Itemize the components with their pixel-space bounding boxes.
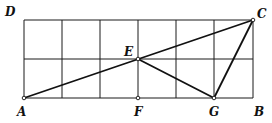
labels: D C E A F G B	[4, 5, 267, 119]
label-E: E	[123, 45, 134, 59]
point-C	[251, 18, 255, 22]
label-A: A	[16, 105, 26, 119]
label-G: G	[209, 105, 219, 119]
geometry-diagram: D C E A F G B	[0, 0, 272, 123]
point-A	[22, 96, 26, 100]
label-D: D	[4, 5, 16, 19]
point-F	[136, 96, 140, 100]
point-E	[136, 57, 140, 61]
label-B: B	[253, 105, 264, 119]
point-G	[212, 96, 216, 100]
label-F: F	[133, 105, 144, 119]
label-C: C	[257, 7, 267, 21]
